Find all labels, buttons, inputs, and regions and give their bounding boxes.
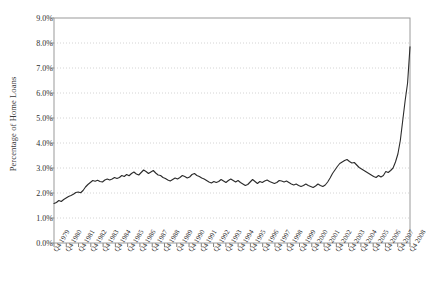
y-axis-tick-label: 3.0% (36, 164, 53, 173)
y-axis-tick-label: 0.0% (36, 239, 53, 248)
y-axis-tick-label: 6.0% (36, 89, 53, 98)
gridlines-group (54, 43, 410, 218)
plot-border (54, 18, 410, 243)
y-axis-tick-label: 7.0% (36, 64, 53, 73)
data-series-line (54, 47, 410, 204)
y-axis-tick-label: 8.0% (36, 39, 53, 48)
x-axis-ticks-group (54, 243, 410, 247)
y-axis-title-text: Percentage of Home Loans (8, 77, 18, 172)
y-axis-tick-label: 1.0% (36, 214, 53, 223)
y-axis-tick-label: 4.0% (36, 139, 53, 148)
y-axis-tick-label: 9.0% (36, 14, 53, 23)
y-axis-tick-label: 2.0% (36, 189, 53, 198)
y-axis-tick-label: 5.0% (36, 114, 53, 123)
y-axis-tick-labels: 0.0%1.0%2.0%3.0%4.0%5.0%6.0%7.0%8.0%9.0% (18, 0, 53, 302)
